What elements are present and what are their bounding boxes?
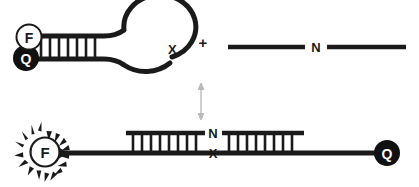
right-duplex-rungs [229,134,292,152]
beacon-stem-rungs [41,37,95,58]
beacon-fluorophore-label: F [25,30,34,46]
diagram-canvas: X Q F + N [0,0,419,187]
molecular-beacon-figure: X Q F + N [0,0,419,187]
beacon-quencher-label: Q [21,51,32,67]
open-fluorophore-label: F [40,144,49,161]
left-duplex-rungs [133,134,196,152]
plus-sign: + [199,34,208,51]
beacon-stem-lower-strand [32,59,124,65]
junction-n-label: N [208,126,217,141]
beacon-loop-lower-tail [124,63,170,71]
beacon-loop-x-label: X [168,42,177,57]
closed-beacon-group: X Q F [13,0,196,71]
beacon-stem-upper-strand [32,30,124,36]
junction-x-label: X [209,146,218,161]
open-quencher-label: Q [382,146,393,162]
open-hybrid-group: F N X [14,122,400,182]
beacon-loop [124,0,196,57]
target-strand-n-label: N [311,40,320,55]
target-strand-group: N [228,40,406,55]
double-headed-vertical-arrow [198,83,204,120]
